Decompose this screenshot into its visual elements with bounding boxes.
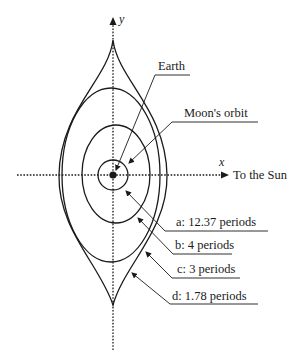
y-axis-arrow-icon	[110, 17, 117, 25]
x-axis-label: x	[218, 155, 225, 169]
x-axis-arrow-icon	[221, 172, 229, 179]
earth-dot	[109, 171, 116, 178]
orbit-b-label: b: 4 periods	[175, 238, 234, 252]
earth-label: Earth	[158, 59, 186, 73]
orbit-c-label: c: 3 periods	[177, 262, 235, 276]
orbit-d-label: d: 1.78 periods	[172, 289, 247, 303]
moon-orbit-label: Moon's orbit	[184, 106, 248, 120]
orbit-a-label: a: 12.37 periods	[176, 215, 256, 229]
sun-direction-label: To the Sun	[233, 168, 288, 182]
orbit-diagram: x y To the Sun Earth Moon's orbit a: 12.…	[0, 0, 298, 357]
earth-leader-line	[116, 75, 190, 170]
y-axis-label: y	[118, 12, 125, 26]
